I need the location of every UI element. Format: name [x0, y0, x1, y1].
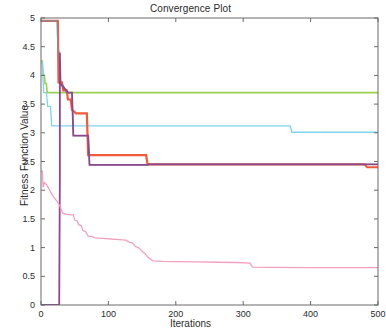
y-tick-label: 2.5	[1, 157, 35, 167]
x-tick-label: 0	[38, 309, 43, 319]
y-tick-label: 3.5	[1, 99, 35, 109]
y-tick-label: 4	[1, 70, 35, 80]
y-tick-label: 1.5	[1, 214, 35, 224]
y-tick-label: 3	[1, 128, 35, 138]
x-axis-title: Iterations	[0, 318, 381, 329]
y-tick-label: 2	[1, 185, 35, 195]
y-tick-label: 0.5	[1, 271, 35, 281]
x-tick-label: 200	[168, 309, 183, 319]
x-tick-label: 500	[370, 309, 385, 319]
x-tick-label: 100	[101, 309, 116, 319]
x-tick-label: 400	[303, 309, 318, 319]
y-tick-label: 0	[1, 300, 35, 310]
y-tick-label: 5	[1, 13, 35, 23]
y-tick-label: 1	[1, 243, 35, 253]
y-tick-label: 4.5	[1, 42, 35, 52]
x-tick-label: 300	[236, 309, 251, 319]
